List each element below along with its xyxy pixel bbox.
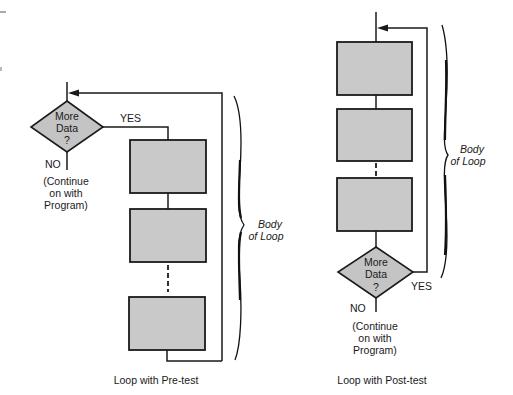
no-label: NO [350,302,366,314]
decision-text-2: Data [56,122,78,134]
yes-label: YES [120,112,141,124]
brace-label-1: Body [460,143,485,155]
brace-label-2: of Loop [248,230,283,242]
decision-text-1: More [364,256,388,268]
continue-text-3: Program) [44,199,88,211]
pretest-flowchart: More Data ? YES NO (Continue on with Pro… [31,82,284,386]
return-connector [167,350,222,361]
decision-text-3: ? [373,281,379,293]
brace-label-1: Body [258,218,283,230]
arrow-head-icon [68,90,79,97]
body-brace [234,96,244,360]
process-box [337,109,412,161]
arrow-head-icon [377,25,388,32]
yes-label: YES [411,280,432,292]
process-box [337,178,412,231]
continue-text-2: on with [358,332,391,344]
decision-text-3: ? [64,134,70,146]
continue-text-2: on with [49,187,82,199]
no-label: NO [45,158,61,170]
yes-connector [103,127,168,140]
decision-text-2: Data [365,268,387,280]
brace-label-2: of Loop [450,155,485,167]
process-box [130,209,206,262]
caption-pretest: Loop with Pre-test [114,374,199,386]
decision-text-1: More [55,110,79,122]
process-box [129,297,205,350]
continue-text-1: (Continue [352,320,398,332]
caption-posttest: Loop with Post-test [337,374,426,386]
process-box [130,140,206,193]
posttest-flowchart: More Data ? YES NO (Continue on with Pro… [337,12,486,386]
process-box [337,42,412,95]
loop-flowcharts: More Data ? YES NO (Continue on with Pro… [0,0,513,395]
continue-text-1: (Continue [43,175,89,187]
continue-text-3: Program) [353,344,397,356]
